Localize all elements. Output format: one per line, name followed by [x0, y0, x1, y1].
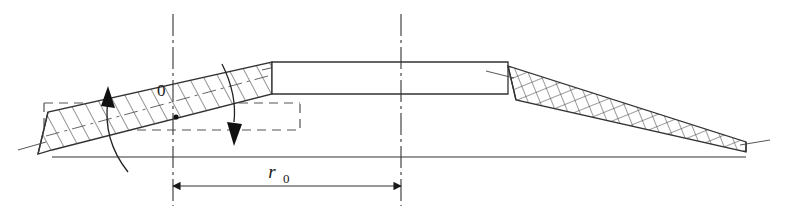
dimension-r0: r 0 [173, 161, 401, 186]
dimension-r0-subscript: 0 [283, 171, 290, 186]
center-hub [272, 62, 508, 94]
right-blade [486, 50, 770, 170]
diagram-canvas: 0 r 0 [0, 0, 793, 220]
dimension-r0-symbol: r [268, 161, 276, 182]
left-blade-twisted [18, 40, 300, 180]
blade-pitch-diagram: 0 r 0 [0, 0, 793, 220]
origin-label: 0 [157, 81, 166, 100]
